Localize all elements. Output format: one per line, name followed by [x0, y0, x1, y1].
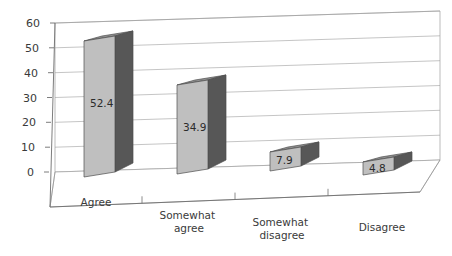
y-axis: 60 50 40 30 20 10 0	[21, 17, 55, 207]
category-label-somewhat-disagree: Somewhat disagree	[253, 216, 312, 241]
chart-canvas: 60 50 40 30 20 10 0 52.4	[0, 0, 452, 256]
bar-agree[interactable]: 52.4	[84, 31, 133, 177]
category-label-line: disagree	[259, 229, 304, 241]
category-label-somewhat-agree: Somewhat agree	[160, 209, 219, 234]
bar-chart-3d: 60 50 40 30 20 10 0 52.4	[0, 0, 452, 256]
bar-side-face	[115, 31, 133, 172]
bar-side-face	[208, 75, 226, 169]
y-tick-label-10: 10	[21, 141, 35, 154]
bar-somewhat-agree[interactable]: 34.9	[177, 75, 226, 174]
y-tick-label-20: 20	[22, 116, 36, 129]
category-label-line: Somewhat	[253, 216, 309, 228]
category-label-agree: Agree	[81, 196, 112, 208]
bar-value-label: 4.8	[369, 162, 386, 174]
bar-value-label: 7.9	[276, 154, 293, 166]
y-tick-label-50: 50	[25, 42, 39, 55]
category-label-disagree: Disagree	[359, 221, 406, 233]
category-label-line: Somewhat	[160, 209, 216, 221]
bar-value-label: 52.4	[90, 97, 114, 109]
y-tick-label-30: 30	[23, 92, 37, 105]
y-tick-label-60: 60	[26, 17, 40, 30]
y-tick-label-0: 0	[27, 166, 34, 179]
bar-value-label: 34.9	[183, 121, 206, 133]
category-label-line: agree	[174, 222, 204, 234]
y-tick-label-40: 40	[24, 67, 38, 80]
